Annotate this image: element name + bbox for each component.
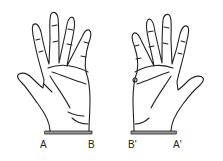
label-a-prime: A'	[173, 140, 182, 150]
right-hand	[131, 14, 203, 134]
label-b-prime: B'	[128, 140, 137, 150]
label-a: A	[40, 140, 47, 150]
left-hand	[18, 12, 92, 134]
hands-diagram	[0, 0, 223, 161]
label-b: B	[88, 140, 95, 150]
